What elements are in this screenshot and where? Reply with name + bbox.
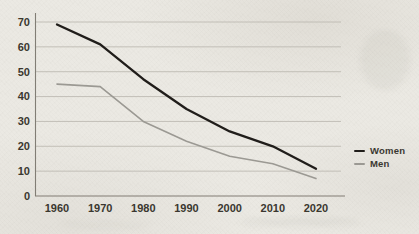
- men-line: [57, 84, 316, 179]
- x-tick-label-2010: 2010: [261, 202, 285, 214]
- scanned-page: 0102030405060701960197019801990200020102…: [0, 0, 419, 234]
- legend-item-women: Women: [354, 146, 405, 156]
- men-line-swatch-icon: [354, 163, 365, 165]
- legend-label-women: Women: [370, 146, 405, 156]
- y-tick-label-10: 10: [18, 165, 30, 177]
- y-tick-label-0: 0: [24, 190, 30, 202]
- y-tick-label-50: 50: [18, 66, 30, 78]
- x-tick-label-2020: 2020: [304, 202, 328, 214]
- x-tick-label-1970: 1970: [88, 202, 112, 214]
- y-tick-label-70: 70: [18, 16, 30, 28]
- legend-item-men: Men: [354, 159, 405, 169]
- y-tick-label-40: 40: [18, 90, 30, 102]
- x-tick-label-2000: 2000: [217, 202, 241, 214]
- y-tick-label-20: 20: [18, 140, 30, 152]
- y-tick-label-60: 60: [18, 41, 30, 53]
- x-tick-label-1980: 1980: [131, 202, 155, 214]
- x-tick-label-1960: 1960: [45, 202, 69, 214]
- y-tick-label-30: 30: [18, 115, 30, 127]
- chart-legend: Women Men: [354, 146, 405, 169]
- legend-label-men: Men: [370, 159, 390, 169]
- x-tick-label-1990: 1990: [174, 202, 198, 214]
- line-chart-canvas: 0102030405060701960197019801990200020102…: [0, 0, 419, 234]
- women-line-swatch-icon: [354, 150, 365, 152]
- line-chart-figure: 0102030405060701960197019801990200020102…: [0, 0, 419, 234]
